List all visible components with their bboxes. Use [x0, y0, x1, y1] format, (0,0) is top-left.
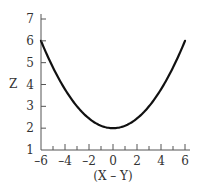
x-tick-label: 2 — [133, 154, 141, 168]
y-axis-title: Z — [9, 77, 17, 91]
x-tick-label: –6 — [34, 154, 48, 168]
y-tick-label: 6 — [26, 34, 34, 48]
y-axis-ticks: 1234567 — [26, 12, 46, 157]
data-curve — [41, 41, 185, 128]
x-tick-label: –2 — [82, 154, 96, 168]
y-tick-label: 1 — [26, 143, 34, 157]
y-tick-label: 4 — [26, 78, 34, 92]
x-tick-label: 4 — [157, 154, 165, 168]
x-tick-label: –4 — [58, 154, 72, 168]
x-axis-title: (X – Y) — [93, 169, 132, 183]
x-tick-label: 0 — [109, 154, 117, 168]
x-axis-ticks: –6–4–20246 — [34, 144, 189, 168]
x-tick-label: 6 — [181, 154, 189, 168]
y-tick-label: 5 — [26, 56, 34, 70]
y-tick-label: 2 — [26, 121, 34, 135]
y-tick-label: 7 — [26, 12, 34, 26]
axes — [41, 14, 190, 150]
y-tick-label: 3 — [26, 99, 34, 113]
chart: 1234567 –6–4–20246 Z (X – Y) — [0, 0, 202, 188]
